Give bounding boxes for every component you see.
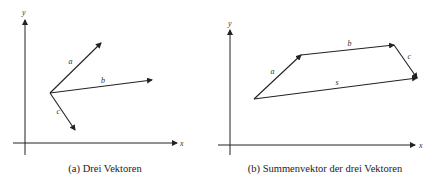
figure-b-x-label: x: [418, 141, 423, 150]
figure-a-vectors: a⃗b⃗c⃗: [50, 43, 152, 130]
figure-a-y-label: y: [21, 8, 26, 17]
figure-a-axes: y x: [13, 8, 184, 155]
figure-b-y-label: y: [227, 19, 232, 28]
figure-b-vector-a-label: a⃗: [271, 67, 281, 76]
figure-a-vector-b-label: b⃗: [101, 76, 111, 85]
figure-b-axes: y x: [218, 19, 423, 155]
figure-b-vector-a: [254, 55, 301, 99]
figure-b-vector-c-label: c⃗: [408, 52, 418, 61]
figure-a-x-label: x: [179, 139, 184, 148]
figure-b-vector-c: [394, 45, 417, 78]
figure-b-vector-b-label: b⃗: [348, 39, 358, 48]
figure-a-vector-a: [50, 43, 101, 93]
vector-diagrams: y x a⃗b⃗c⃗ y x a⃗b⃗c⃗s⃗: [0, 0, 432, 188]
figure-a-vector-a-label: a⃗: [69, 57, 79, 66]
figure-b-caption: (b) Summenvektor der drei Vektoren: [235, 163, 415, 174]
figure-a-vector-c-label: c⃗: [57, 107, 67, 116]
figure-a-caption: (a) Drei Vektoren: [40, 163, 170, 174]
figure-b-vectors: a⃗b⃗c⃗s⃗: [254, 39, 417, 99]
figure-b-vector-s-label: s⃗: [336, 78, 345, 87]
